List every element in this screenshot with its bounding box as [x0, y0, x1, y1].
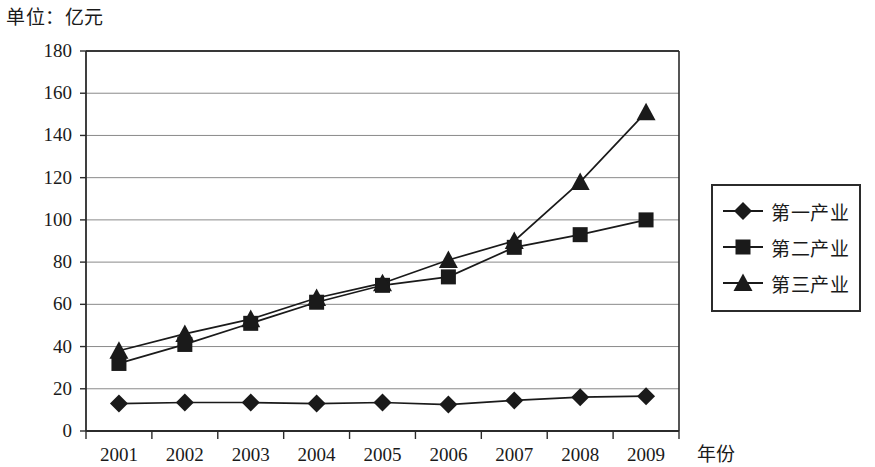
series-2-point-2006	[441, 269, 456, 284]
y-axis-tick-120: 120	[20, 168, 72, 187]
legend-item-3[interactable]: 第三产业	[721, 268, 849, 298]
y-axis-tick-20: 20	[20, 379, 72, 398]
x-axis-tick-2006: 2006	[418, 445, 478, 464]
y-axis-tick-40: 40	[20, 337, 72, 356]
x-axis-tick-2009: 2009	[616, 445, 676, 464]
x-axis-title: 年份	[697, 445, 735, 464]
y-axis-tick-100: 100	[20, 210, 72, 229]
chart-figure: 单位：亿元 180160140120100806040200 200120022…	[0, 0, 875, 467]
x-axis-tick-2005: 2005	[353, 445, 413, 464]
legend-item-2[interactable]: 第二产业	[721, 232, 849, 262]
y-axis-tick-0: 0	[20, 421, 72, 440]
legend-item-1[interactable]: 第一产业	[721, 196, 849, 226]
x-axis-tick-2001: 2001	[89, 445, 149, 464]
plot-background	[86, 51, 679, 431]
legend-label-1: 第一产业	[771, 198, 849, 225]
diamond-marker	[721, 199, 765, 223]
y-axis-tick-180: 180	[20, 41, 72, 60]
legend: 第一产业第二产业第三产业	[711, 184, 861, 312]
y-axis-tick-140: 140	[20, 125, 72, 144]
legend-label-3: 第三产业	[771, 270, 849, 297]
legend-label-2: 第二产业	[771, 234, 849, 261]
x-axis-tick-2003: 2003	[221, 445, 281, 464]
square-marker	[721, 235, 765, 259]
x-axis-tick-2008: 2008	[550, 445, 610, 464]
y-axis-tick-60: 60	[20, 294, 72, 313]
series-2-point-2008	[573, 227, 588, 242]
series-2-point-2009	[639, 212, 654, 227]
x-axis-tick-2002: 2002	[155, 445, 215, 464]
legend-marker-1	[734, 202, 752, 220]
triangle-marker	[721, 271, 765, 295]
x-axis-tick-2007: 2007	[484, 445, 544, 464]
y-axis-tick-160: 160	[20, 83, 72, 102]
x-axis-tick-2004: 2004	[287, 445, 347, 464]
y-axis-tick-80: 80	[20, 252, 72, 271]
unit-label: 单位：亿元	[6, 2, 104, 29]
legend-marker-2	[736, 240, 751, 255]
